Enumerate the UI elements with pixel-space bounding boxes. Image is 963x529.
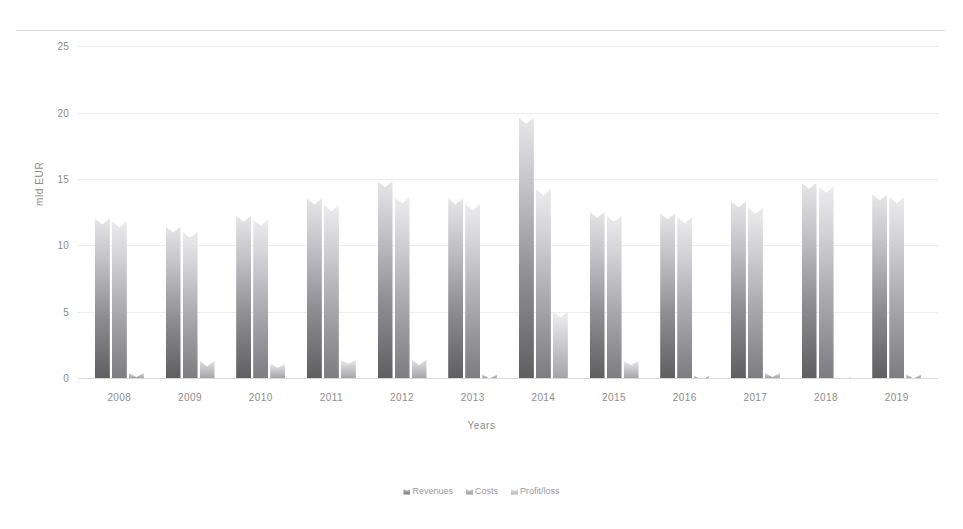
y-tick-label-0: 0 <box>63 373 69 384</box>
x-tick-label-2015: 2015 <box>602 392 626 403</box>
x-tick-label-2009: 2009 <box>178 392 202 403</box>
bar-costs-2009 <box>183 227 198 378</box>
gridline-0: 0 <box>78 378 938 379</box>
bar-profit-loss-residual-2012 <box>412 354 427 378</box>
bar-revenues-2015 <box>590 207 605 378</box>
legend-swatch-icon <box>403 488 410 495</box>
legend-label: Costs <box>475 486 498 496</box>
bar-group-2012: 2012 <box>367 33 438 378</box>
x-tick-label-2016: 2016 <box>673 392 697 403</box>
top-rule-artifact <box>16 30 946 31</box>
bar-group-2013: 2013 <box>437 33 508 378</box>
bar-group-2017: 2017 <box>720 33 791 378</box>
bar-revenues-2016 <box>660 208 675 378</box>
y-tick-label-5: 5 <box>63 306 69 317</box>
y-tick-label-10: 10 <box>57 240 69 251</box>
bar-group-2010: 2010 <box>225 33 296 378</box>
bar-profit-loss-residual-2014 <box>553 306 568 378</box>
bar-profit-loss-residual-2008 <box>129 370 144 378</box>
bar-revenues-2013 <box>448 194 463 378</box>
bar-costs-2016 <box>677 212 692 378</box>
x-tick-label-2014: 2014 <box>531 392 555 403</box>
bar-group-2008: 2008 <box>84 33 155 378</box>
y-tick-label-15: 15 <box>57 173 69 184</box>
bar-revenues-2008 <box>95 213 110 378</box>
bar-revenues-2014 <box>519 113 534 378</box>
x-axis-label: Years <box>0 420 963 431</box>
bar-costs-2011 <box>324 200 339 378</box>
legend-item-revenues[interactable]: Revenues <box>403 486 453 496</box>
legend-label: Revenues <box>412 486 453 496</box>
bar-group-2016: 2016 <box>649 33 720 378</box>
bar-profit-loss-residual-2010 <box>270 361 285 378</box>
bar-revenues-2010 <box>236 211 251 378</box>
bar-profit-loss-residual-2009 <box>200 355 215 378</box>
bar-revenues-2009 <box>166 221 181 378</box>
bar-costs-2013 <box>465 199 480 378</box>
bar-profit-loss-residual-2013 <box>482 371 497 378</box>
bar-chart: mld EUR 0510152025 200820092010201120122… <box>0 0 963 529</box>
legend-item-costs[interactable]: Costs <box>466 486 498 496</box>
bar-revenues-2019 <box>872 190 887 378</box>
bar-revenues-2018 <box>802 178 817 378</box>
bar-group-2009: 2009 <box>155 33 226 378</box>
x-tick-label-2018: 2018 <box>814 392 838 403</box>
bar-revenues-2011 <box>307 194 322 378</box>
legend-swatch-icon <box>466 488 473 495</box>
bar-profit-loss-residual-2019 <box>906 371 921 378</box>
bar-profit-loss-residual-2011 <box>341 357 356 378</box>
bar-groups: 2008200920102011201220132014201520162017… <box>78 33 938 378</box>
y-tick-label-20: 20 <box>57 107 69 118</box>
legend-item-profit-loss[interactable]: Profit/loss <box>511 486 560 496</box>
legend-label: Profit/loss <box>520 486 560 496</box>
bar-group-2018: 2018 <box>791 33 862 378</box>
x-tick-label-2012: 2012 <box>390 392 414 403</box>
bar-profit-loss-residual-2018 <box>836 374 851 378</box>
bar-costs-2015 <box>607 211 622 378</box>
y-axis-label: mld EUR <box>34 162 45 206</box>
x-tick-label-2017: 2017 <box>743 392 767 403</box>
x-tick-label-2019: 2019 <box>885 392 909 403</box>
bar-group-2011: 2011 <box>296 33 367 378</box>
bar-costs-2019 <box>889 192 904 378</box>
bar-group-2014: 2014 <box>508 33 579 378</box>
bar-costs-2012 <box>395 192 410 378</box>
bar-profit-loss-residual-2016 <box>694 373 709 378</box>
bar-group-2019: 2019 <box>861 33 932 378</box>
x-tick-label-2011: 2011 <box>320 392 343 403</box>
x-tick-label-2008: 2008 <box>107 392 131 403</box>
bar-costs-2008 <box>112 216 127 378</box>
bar-costs-2010 <box>253 215 268 378</box>
x-tick-label-2010: 2010 <box>249 392 273 403</box>
bar-profit-loss-residual-2017 <box>765 370 780 378</box>
x-tick-label-2013: 2013 <box>461 392 485 403</box>
bar-revenues-2017 <box>731 196 746 378</box>
legend-swatch-icon <box>511 488 518 495</box>
bar-profit-loss-residual-2015 <box>624 358 639 378</box>
y-tick-label-25: 25 <box>57 41 69 52</box>
bar-costs-2014 <box>536 184 551 378</box>
bar-group-2015: 2015 <box>579 33 650 378</box>
bar-costs-2017 <box>748 203 763 378</box>
chart-legend: RevenuesCostsProfit/loss <box>0 486 963 496</box>
bar-revenues-2012 <box>378 176 393 378</box>
bar-costs-2018 <box>819 182 834 378</box>
